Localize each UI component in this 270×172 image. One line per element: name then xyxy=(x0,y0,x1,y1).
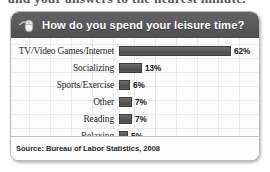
cut-off-page-text: and your answers to the nearest minute. xyxy=(8,0,260,7)
chart-row: TV/Video Games/Internet62% xyxy=(11,43,259,59)
panel-footer: Source: Bureau of Labor Statistics, 2008 xyxy=(11,136,259,160)
bar-track: 13% xyxy=(119,63,259,73)
bar xyxy=(119,97,132,107)
category-label: Other xyxy=(11,97,119,107)
bar-value-label: 62% xyxy=(234,47,250,56)
computer-mouse-icon xyxy=(15,13,39,37)
category-label: Socializing xyxy=(11,63,119,73)
panel-header: How do you spend your leisure time? xyxy=(11,12,259,38)
chart-row: Sports/Exercise6% xyxy=(11,77,259,93)
bar xyxy=(119,80,130,90)
bar-track: 62% xyxy=(119,46,259,56)
chart-row: Reading7% xyxy=(11,111,259,127)
bar-value-label: 13% xyxy=(145,64,161,73)
bar xyxy=(119,46,231,56)
bar-value-label: 7% xyxy=(135,98,147,107)
bar-value-label: 6% xyxy=(133,81,145,90)
bar xyxy=(119,63,142,73)
bar-track: 7% xyxy=(119,97,259,107)
source-note: Source: Bureau of Labor Statistics, 2008 xyxy=(16,144,160,153)
category-label: Sports/Exercise xyxy=(11,80,119,90)
category-label: Reading xyxy=(11,114,119,124)
category-label: TV/Video Games/Internet xyxy=(11,46,119,56)
chart-row: Socializing13% xyxy=(11,60,259,76)
bar-value-label: 7% xyxy=(135,115,147,124)
bar-track: 6% xyxy=(119,80,259,90)
bar-track: 7% xyxy=(119,114,259,124)
bar-chart: TV/Video Games/Internet62%Socializing13%… xyxy=(11,38,259,137)
panel-title: How do you spend your leisure time? xyxy=(42,19,244,31)
survey-chart-panel: How do you spend your leisure time? TV/V… xyxy=(10,11,260,161)
chart-row: Other7% xyxy=(11,94,259,110)
bar xyxy=(119,114,132,124)
